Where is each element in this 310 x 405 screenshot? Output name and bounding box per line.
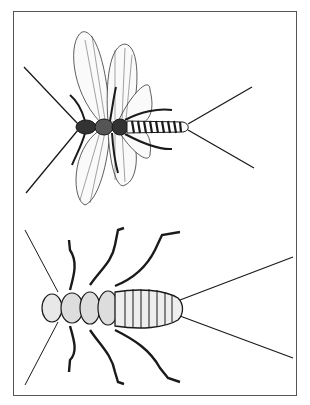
stonefly-nymph [25,228,293,385]
stonefly-illustration [0,0,310,405]
adult-stonefly [24,32,254,205]
wings [74,32,152,205]
